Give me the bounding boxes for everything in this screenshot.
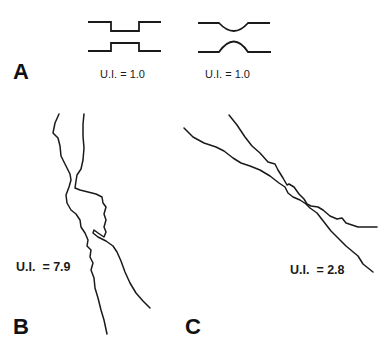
- ui-value-panel-c: U.I. = 2.8: [290, 264, 345, 277]
- panel-label-c: C: [185, 316, 201, 338]
- figure-artwork: [0, 0, 391, 346]
- trace-b-left-wall: [53, 114, 107, 334]
- ui-value-rectangular: U.I. = 1.0: [100, 69, 145, 80]
- schematic-rectangular-constriction: [88, 22, 161, 51]
- trace-b-right-wall: [75, 114, 150, 308]
- schematic-rounded-constriction: [198, 23, 271, 52]
- ui-value-rounded: U.I. = 1.0: [205, 69, 250, 80]
- trace-c-lower-wall: [229, 115, 377, 227]
- panel-label-a: A: [13, 61, 29, 83]
- panel-label-b: B: [13, 316, 29, 338]
- ui-value-panel-b: U.I. = 7.9: [16, 261, 71, 274]
- trace-c-upper-wall: [184, 128, 373, 272]
- figure: A B C U.I. = 1.0 U.I. = 1.0 U.I. = 7.9 U…: [0, 0, 391, 346]
